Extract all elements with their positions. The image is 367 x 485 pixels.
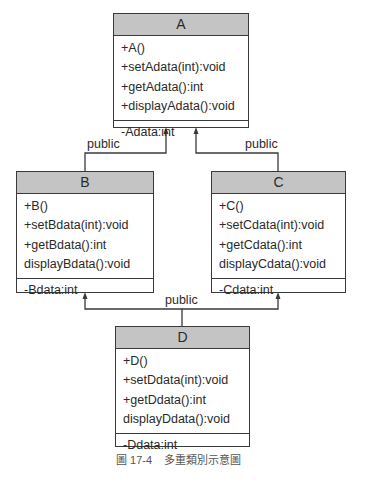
operation: +setAdata(int):void [121, 58, 248, 77]
class-a-name: A [114, 14, 248, 36]
operation: +getAdata():int [121, 78, 248, 97]
operation: +setCdata(int):void [219, 216, 345, 235]
class-a: A +A() +setAdata(int):void +getAdata():i… [113, 13, 249, 128]
operation: +getBdata():int [24, 236, 153, 255]
operation: +getDdata():int [123, 391, 249, 410]
operation: displayCdata():void [219, 255, 345, 274]
class-c-attribute: -Cdata:int [212, 279, 345, 301]
class-b: B +B() +setBdata(int):void +getBdata():i… [16, 171, 154, 293]
figure-caption: 圖 17-4 多重類別示意圖 [116, 451, 241, 467]
operation: +setDdata(int):void [123, 371, 249, 390]
class-a-operations: +A() +setAdata(int):void +getAdata():int… [114, 36, 248, 121]
operation: +D() [123, 352, 249, 371]
relation-label-c-a: public [245, 137, 278, 151]
class-d-operations: +D() +setDdata(int):void +getDdata():int… [116, 349, 249, 434]
operation: displayBdata():void [24, 255, 153, 274]
class-b-name: B [17, 172, 153, 194]
class-c-name: C [212, 172, 345, 194]
class-d-name: D [116, 327, 249, 349]
operation: +B() [24, 197, 153, 216]
figure-number: 圖 17-4 [116, 454, 152, 466]
class-c-operations: +C() +setCdata(int):void +getCdata():int… [212, 194, 345, 279]
figure-title: 多重類別示意圖 [164, 454, 241, 466]
operation: +A() [121, 39, 248, 58]
class-b-attribute: -Bdata:int [17, 279, 153, 301]
class-c: C +C() +setCdata(int):void +getCdata():i… [211, 171, 346, 293]
operation: +C() [219, 197, 345, 216]
class-d: D +D() +setDdata(int):void +getDdata():i… [115, 326, 250, 447]
class-a-attribute: -Adata:int [114, 121, 248, 143]
relation-label-b-a: public [87, 137, 120, 151]
operation: +setBdata(int):void [24, 216, 153, 235]
operation: +getCdata():int [219, 236, 345, 255]
operation: +displayAdata():void [121, 97, 248, 116]
class-b-operations: +B() +setBdata(int):void +getBdata():int… [17, 194, 153, 279]
relation-label-d-b-c: public [165, 293, 198, 307]
operation: displayDdata():void [123, 410, 249, 429]
